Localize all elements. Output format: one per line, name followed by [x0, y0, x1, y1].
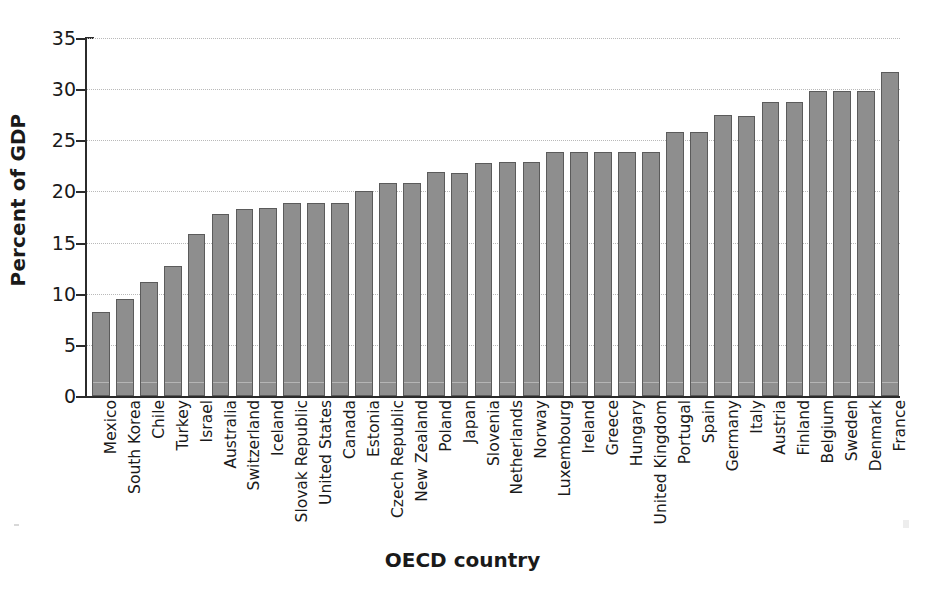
y-axis-title: Percent of GDP — [0, 0, 36, 400]
x-tick-label: Slovak Republic — [295, 400, 311, 522]
bar-slot — [236, 38, 254, 396]
bar[interactable] — [116, 299, 134, 396]
y-tick-mark — [76, 294, 86, 296]
bar-slot — [403, 38, 421, 396]
bar[interactable] — [666, 132, 684, 396]
bar[interactable] — [403, 183, 421, 396]
bar-slot — [833, 38, 851, 396]
x-tick-label: Italy — [750, 400, 766, 434]
bar-slot — [499, 38, 517, 396]
bar[interactable] — [762, 102, 780, 396]
bar-slot — [881, 38, 899, 396]
bar-slot — [188, 38, 206, 396]
bar[interactable] — [475, 163, 493, 396]
bar[interactable] — [283, 203, 301, 396]
bar[interactable] — [427, 172, 445, 396]
y-tick-label: 0 — [64, 385, 76, 407]
x-tick-label: Finland — [797, 400, 813, 455]
x-tick-label: Netherlands — [510, 400, 526, 494]
x-tick-label: Spain — [702, 400, 718, 443]
bar[interactable] — [642, 152, 660, 396]
bar[interactable] — [92, 312, 110, 396]
x-tick-label: Switzerland — [247, 400, 263, 490]
bar[interactable] — [499, 162, 517, 396]
bar-slot — [642, 38, 660, 396]
y-tick-mark — [76, 38, 86, 40]
bar-slot — [164, 38, 182, 396]
y-tick-label: 35 — [52, 27, 76, 49]
x-tick-label: Japan — [463, 400, 479, 443]
bar-slot — [690, 38, 708, 396]
bar-chart-figure: Percent of GDP 05101520253035 MexicoSout… — [0, 0, 925, 601]
bar[interactable] — [451, 173, 469, 396]
y-tick-mark — [76, 89, 86, 91]
x-tick-label: Iceland — [271, 400, 287, 456]
bar-slot — [762, 38, 780, 396]
bar[interactable] — [164, 266, 182, 396]
x-tick-label: Denmark — [869, 400, 885, 471]
y-tick-label: 15 — [52, 232, 76, 254]
bar-slot — [116, 38, 134, 396]
y-tick-label: 30 — [52, 78, 76, 100]
bar[interactable] — [331, 203, 349, 396]
bar-slot — [92, 38, 110, 396]
bar[interactable] — [236, 209, 254, 396]
bar[interactable] — [307, 203, 325, 396]
x-tick-label: Chile — [152, 400, 168, 439]
bar[interactable] — [809, 91, 827, 396]
x-tick-label: Sweden — [845, 400, 861, 461]
x-tick-label: Poland — [439, 400, 455, 452]
bar-slot — [355, 38, 373, 396]
x-tick-label: New Zealand — [415, 400, 431, 502]
x-tick-label: Norway — [534, 400, 550, 459]
bar-slot — [714, 38, 732, 396]
x-tick-label: Canada — [343, 400, 359, 459]
bar[interactable] — [570, 152, 588, 396]
x-tick-label: Greece — [606, 400, 622, 455]
bar-slot — [331, 38, 349, 396]
bar[interactable] — [786, 102, 804, 396]
y-axis-tick-labels: 05101520253035 — [40, 0, 82, 420]
bar[interactable] — [881, 72, 899, 396]
bar-slot — [570, 38, 588, 396]
bar-slot — [523, 38, 541, 396]
y-tick-label: 25 — [52, 129, 76, 151]
bar[interactable] — [857, 91, 875, 396]
x-axis-tick-labels: MexicoSouth KoreaChileTurkeyIsraelAustra… — [85, 400, 898, 540]
bar[interactable] — [379, 183, 397, 396]
x-tick-label: Germany — [726, 400, 742, 471]
bar[interactable] — [833, 91, 851, 396]
bar[interactable] — [140, 282, 158, 396]
bar[interactable] — [714, 115, 732, 396]
y-tick-mark — [76, 191, 86, 193]
x-tick-label: Mexico — [104, 400, 120, 454]
bar[interactable] — [594, 152, 612, 396]
bar-slot — [212, 38, 230, 396]
bar[interactable] — [523, 162, 541, 396]
bar-slot — [594, 38, 612, 396]
plot-area — [85, 38, 900, 396]
y-tick-label: 5 — [64, 334, 76, 356]
bar-slot — [427, 38, 445, 396]
y-tick-mark — [76, 140, 86, 142]
x-tick-label: Austria — [773, 400, 789, 455]
bars-layer — [87, 38, 900, 396]
bar[interactable] — [546, 152, 564, 396]
bar[interactable] — [355, 191, 373, 396]
bar[interactable] — [690, 132, 708, 396]
bar-slot — [379, 38, 397, 396]
scan-artifact-left — [14, 524, 19, 526]
x-tick-label: Turkey — [176, 400, 192, 450]
bar-slot — [283, 38, 301, 396]
bar-slot — [307, 38, 325, 396]
x-tick-label: United States — [319, 400, 335, 505]
bar-slot — [618, 38, 636, 396]
bar[interactable] — [188, 234, 206, 396]
x-tick-label: Australia — [224, 400, 240, 469]
bar[interactable] — [738, 116, 756, 396]
bar-slot — [857, 38, 875, 396]
bar[interactable] — [618, 152, 636, 396]
bar[interactable] — [212, 214, 230, 396]
bar[interactable] — [259, 208, 277, 396]
y-tick-label: 20 — [52, 180, 76, 202]
